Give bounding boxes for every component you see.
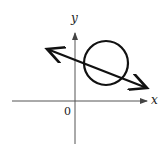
y-axis-label: y: [70, 11, 78, 25]
coordinate-diagram: y x 0: [0, 0, 164, 144]
x-axis-label: x: [151, 93, 158, 107]
origin-label: 0: [64, 105, 71, 118]
